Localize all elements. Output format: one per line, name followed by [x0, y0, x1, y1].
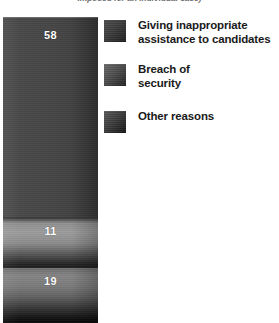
chart-caption: imposed for an individual case): [0, 0, 279, 3]
legend-item-breach-of-security[interactable]: Breach of security: [104, 63, 279, 90]
bar-segment-value: 11: [3, 225, 98, 237]
legend-item-label: Giving inappropriate assistance to candi…: [138, 19, 271, 46]
bar-segment-value: 58: [3, 29, 98, 41]
legend-swatch-icon: [104, 64, 126, 86]
bar-segment-value: 19: [3, 275, 98, 287]
legend-item-label: Other reasons: [138, 110, 214, 124]
legend-item-label: Breach of security: [138, 63, 190, 90]
legend-item-other-reasons[interactable]: Other reasons: [104, 110, 279, 133]
bar-segment-breach-of-security[interactable]: 11: [3, 217, 98, 268]
legend-swatch-icon: [104, 20, 126, 42]
legend-item-giving-inappropriate-assistance[interactable]: Giving inappropriate assistance to candi…: [104, 19, 279, 46]
stacked-bar-chart: 58 11 19: [3, 17, 98, 323]
bar-segment-giving-inappropriate-assistance[interactable]: 58: [3, 17, 98, 217]
legend-swatch-icon: [104, 111, 126, 133]
bar-segment-other-reasons[interactable]: 19: [3, 268, 98, 323]
